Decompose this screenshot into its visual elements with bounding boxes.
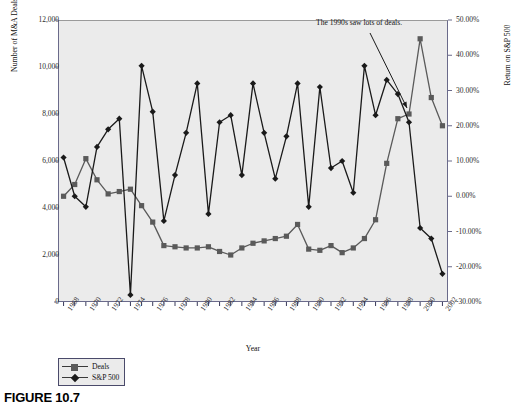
- y2-axis-tick-label: 20.00%: [456, 122, 479, 130]
- chart-legend: Deals S&P 500: [58, 358, 125, 386]
- right-axis-title: Return on S&P 500: [503, 0, 512, 120]
- figure-caption: FIGURE 10.7: [4, 390, 80, 405]
- y-axis-tick-label: 8,000: [42, 110, 59, 118]
- y-axis-tick-label: 4,000: [42, 204, 59, 212]
- chart-annotation: The 1990s saw lots of deals.: [316, 18, 402, 27]
- legend-square-marker-icon: [62, 362, 88, 372]
- y2-axis-tick-label: -20.00%: [456, 263, 482, 271]
- y2-axis-tick-label: 50.00%: [456, 16, 479, 24]
- figure-container: Number of M&A Deals Return on S&P 500 Ye…: [0, 0, 521, 411]
- y-axis-tick-label: 0: [55, 298, 59, 306]
- y-axis-tick-label: 10,000: [38, 63, 59, 71]
- y2-axis-tick-label: 0.00%: [456, 192, 475, 200]
- left-axis-title: Number of M&A Deals: [10, 0, 19, 100]
- y-axis-tick-label: 2,000: [42, 251, 59, 259]
- legend-label-sp500: S&P 500: [88, 373, 119, 382]
- legend-item-deals: Deals: [62, 361, 119, 372]
- y2-axis-tick-label: 40.00%: [456, 51, 479, 59]
- y2-axis-tick-label: 30.00%: [456, 87, 479, 95]
- y2-axis-tick-label: 10.00%: [456, 157, 479, 165]
- legend-item-sp500: S&P 500: [62, 372, 119, 383]
- legend-label-deals: Deals: [88, 362, 109, 371]
- y-axis-tick-label: 12,000: [38, 16, 59, 24]
- legend-diamond-marker-icon: [62, 373, 88, 383]
- plot-area: [58, 20, 448, 302]
- x-axis-title: Year: [58, 344, 448, 353]
- y-axis-tick-label: 6,000: [42, 157, 59, 165]
- y2-axis-tick-label: -10.00%: [456, 228, 482, 236]
- y2-axis-tick-label: -30.00%: [456, 298, 482, 306]
